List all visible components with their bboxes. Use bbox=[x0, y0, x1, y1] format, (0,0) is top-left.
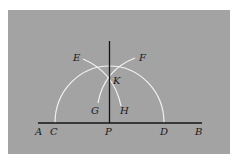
label-p: P bbox=[104, 126, 112, 137]
geometry-figure: E F K G H A C P D B bbox=[0, 0, 238, 160]
label-b: B bbox=[194, 126, 202, 137]
label-k: K bbox=[112, 75, 121, 86]
label-e: E bbox=[72, 52, 81, 63]
label-a: A bbox=[34, 126, 42, 137]
label-h: H bbox=[119, 105, 129, 116]
label-c: C bbox=[50, 126, 58, 137]
label-g: G bbox=[91, 105, 99, 116]
label-d: D bbox=[159, 126, 168, 137]
label-f: F bbox=[138, 52, 147, 63]
